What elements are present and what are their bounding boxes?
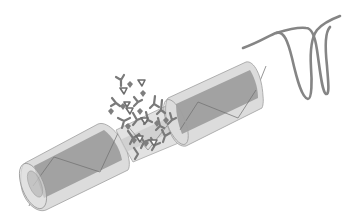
left-fiber-segment bbox=[14, 123, 130, 212]
fiber-sensor-diagram bbox=[0, 0, 363, 224]
right-fiber-segment bbox=[159, 62, 264, 148]
